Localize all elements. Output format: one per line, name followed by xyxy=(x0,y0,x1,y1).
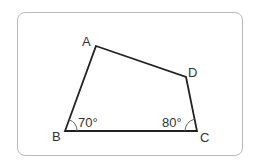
vertex-label-c: C xyxy=(200,130,209,145)
angle-label-b: 70° xyxy=(78,115,98,130)
vertex-label-b: B xyxy=(52,129,61,144)
vertex-label-d: D xyxy=(188,65,197,80)
angle-label-c: 80° xyxy=(162,115,182,130)
angle-arc-b xyxy=(69,120,77,131)
quadrilateral-diagram: A B C D 70° 80° xyxy=(0,0,254,160)
vertex-label-a: A xyxy=(82,34,91,49)
angle-arc-c xyxy=(185,119,195,131)
